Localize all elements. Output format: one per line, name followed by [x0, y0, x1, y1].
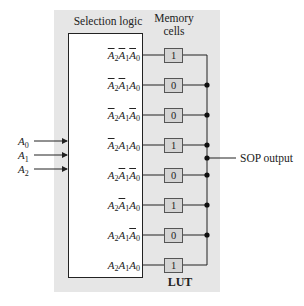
memory-cell-1: 0 [164, 78, 183, 93]
memory-cell-4: 0 [164, 168, 183, 183]
minterm-4: A2A1A0 [70, 168, 140, 186]
minterm-3: A2A1A0 [70, 138, 140, 156]
minterm-1: A2A1A0 [70, 78, 140, 96]
minterm-2: A2A1A0 [70, 108, 140, 126]
memory-cell-0: 1 [164, 48, 183, 63]
memory-cell-5: 1 [164, 198, 183, 213]
sop-output-label: SOP output [240, 152, 293, 164]
minterm-7: A2A1A0 [70, 258, 140, 276]
input-label-a2: A2 [18, 163, 29, 180]
memory-cell-3: 1 [164, 138, 183, 153]
minterm-5: A2A1A0 [70, 198, 140, 216]
lut-label: LUT [160, 275, 200, 290]
memory-cell-7: 1 [164, 258, 183, 273]
minterm-0: A2A1A0 [70, 48, 140, 66]
minterm-6: A2A1A0 [70, 228, 140, 246]
memory-cell-2: 0 [164, 108, 183, 123]
memory-cell-6: 0 [164, 228, 183, 243]
